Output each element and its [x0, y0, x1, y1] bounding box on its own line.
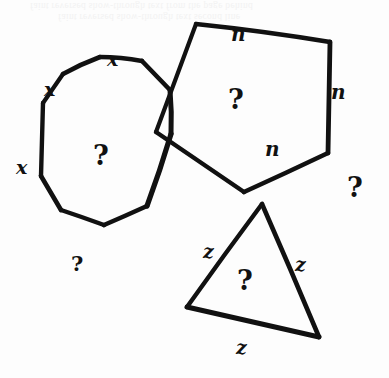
label-q-pentagon: ?: [228, 86, 244, 113]
label-n-inner: n: [265, 139, 280, 159]
label-q-triangle: ?: [237, 267, 253, 294]
label-x-left: x: [16, 158, 27, 177]
label-n-top: n: [231, 24, 246, 44]
label-q-right: ?: [347, 174, 363, 201]
label-x-top: x: [107, 50, 118, 69]
label-z-left: z: [203, 242, 214, 261]
label-z-right: z: [295, 255, 306, 274]
hand-drawn-polygons: [0, 0, 389, 378]
label-q-below-octagon: ?: [71, 253, 83, 274]
sketch-canvas: faint reversed show-through text from th…: [0, 0, 389, 378]
label-q-octagon: ?: [93, 142, 109, 169]
label-n-right: n: [331, 82, 346, 102]
label-x-upper-left: x: [44, 80, 55, 99]
label-z-bottom: z: [236, 338, 247, 357]
